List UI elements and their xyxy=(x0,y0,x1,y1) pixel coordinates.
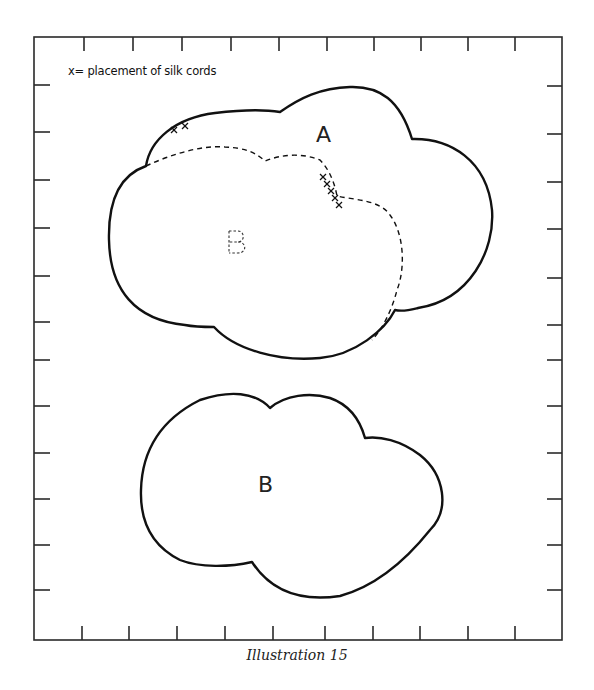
dashed-letter-b xyxy=(229,231,245,253)
cloud-piece-a-outline xyxy=(109,87,492,359)
right-ticks xyxy=(547,86,562,590)
bottom-ticks xyxy=(82,626,515,640)
legend-text: x= placement of silk cords xyxy=(68,64,216,78)
silk-cord-marks-notch xyxy=(320,174,342,208)
ruler-frame xyxy=(34,37,562,640)
figure-caption: Illustration 15 xyxy=(0,647,594,663)
cloud-piece-b-outline xyxy=(141,394,442,598)
piece-label-b: B xyxy=(258,472,273,497)
cloud-piece-b-overlay-dashed xyxy=(146,147,402,340)
frame-border xyxy=(34,37,562,640)
top-ticks xyxy=(84,37,515,51)
illustration-canvas: x= placement of silk cords A B Illustrat… xyxy=(0,0,594,690)
piece-label-a: A xyxy=(316,122,331,147)
left-ticks xyxy=(34,85,50,590)
